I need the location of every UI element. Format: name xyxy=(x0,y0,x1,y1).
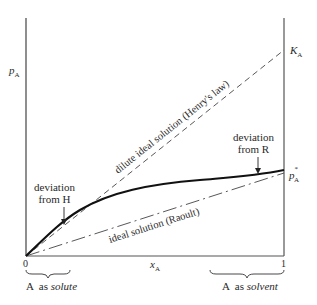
x-tick-1: 1 xyxy=(281,258,286,270)
x-tick-0: 0 xyxy=(23,258,28,270)
henry-line-label: dilute ideal solution (Henry's law) xyxy=(112,77,232,176)
solvent-region-label: A as solvent xyxy=(222,280,278,292)
solute-region-label: A as solute xyxy=(26,280,77,292)
solute-brace xyxy=(26,270,70,278)
deviation-from-henry-label: deviation from H xyxy=(34,181,75,205)
henry-constant-label: KA xyxy=(290,44,302,61)
y-axis-label: pA xyxy=(9,64,20,81)
pure-vapour-pressure-label: p*A xyxy=(289,166,299,186)
solvent-brace xyxy=(210,270,284,278)
x-axis-label: xA xyxy=(150,258,160,275)
deviation-from-raoult-label: deviation from R xyxy=(233,131,274,155)
